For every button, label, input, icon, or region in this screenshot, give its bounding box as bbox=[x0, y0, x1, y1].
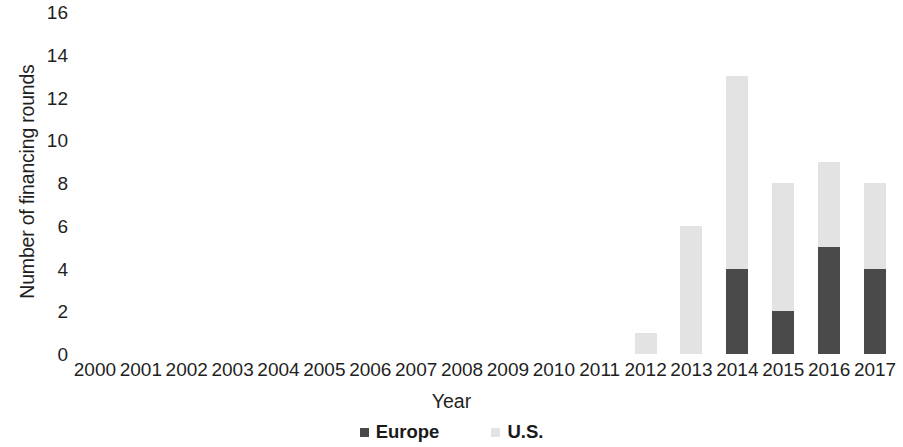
bar-group-2013[interactable] bbox=[669, 12, 715, 354]
legend-swatch-europe-icon bbox=[360, 428, 369, 437]
bar-group-2008[interactable] bbox=[439, 12, 485, 354]
stacked-bar-chart: Number of financing rounds 0246810121416… bbox=[0, 0, 903, 447]
y-axis-tick-10: 10 bbox=[22, 131, 68, 150]
x-axis-tick-2016: 2016 bbox=[808, 358, 850, 382]
y-axis-tick-labels: 0246810121416 bbox=[22, 0, 68, 447]
legend-label: Europe bbox=[376, 421, 440, 443]
bar-stack bbox=[864, 183, 886, 354]
bar-stack bbox=[726, 76, 748, 354]
bar-stack bbox=[680, 226, 702, 354]
bar-group-2003[interactable] bbox=[210, 12, 256, 354]
plot-area bbox=[72, 12, 898, 354]
legend-label: U.S. bbox=[507, 421, 543, 443]
bar-segment-us-2016[interactable] bbox=[818, 162, 840, 248]
x-axis-tick-2004: 2004 bbox=[257, 358, 299, 382]
y-axis-tick-14: 14 bbox=[22, 45, 68, 64]
x-axis-title: Year bbox=[0, 390, 903, 413]
x-axis-tick-2007: 2007 bbox=[395, 358, 437, 382]
bar-segment-us-2014[interactable] bbox=[726, 76, 748, 268]
bar-segment-europe-2015[interactable] bbox=[772, 311, 794, 354]
bar-stack bbox=[635, 333, 657, 354]
x-axis-tick-2015: 2015 bbox=[762, 358, 804, 382]
y-axis-tick-8: 8 bbox=[22, 174, 68, 193]
bar-group-2001[interactable] bbox=[118, 12, 164, 354]
bar-group-2006[interactable] bbox=[347, 12, 393, 354]
x-axis-tick-2000: 2000 bbox=[74, 358, 116, 382]
y-axis-tick-0: 0 bbox=[22, 345, 68, 364]
bar-segment-us-2017[interactable] bbox=[864, 183, 886, 269]
chart-legend: EuropeU.S. bbox=[0, 421, 903, 443]
bar-segment-europe-2014[interactable] bbox=[726, 269, 748, 355]
bar-group-2015[interactable] bbox=[760, 12, 806, 354]
y-axis-tick-6: 6 bbox=[22, 216, 68, 235]
bar-group-2011[interactable] bbox=[577, 12, 623, 354]
y-axis-tick-4: 4 bbox=[22, 259, 68, 278]
x-axis-tick-2013: 2013 bbox=[670, 358, 712, 382]
y-axis-tick-2: 2 bbox=[22, 302, 68, 321]
bar-group-2009[interactable] bbox=[485, 12, 531, 354]
bar-segment-europe-2016[interactable] bbox=[818, 247, 840, 354]
x-axis-tick-2003: 2003 bbox=[211, 358, 253, 382]
x-axis-tick-2005: 2005 bbox=[303, 358, 345, 382]
x-axis-tick-2011: 2011 bbox=[579, 358, 620, 382]
bar-segment-us-2012[interactable] bbox=[635, 333, 657, 354]
x-axis-tick-2009: 2009 bbox=[487, 358, 529, 382]
bar-segment-us-2015[interactable] bbox=[772, 183, 794, 311]
bar-stack bbox=[818, 162, 840, 354]
x-axis-tick-2014: 2014 bbox=[716, 358, 758, 382]
bar-group-2014[interactable] bbox=[714, 12, 760, 354]
x-axis-tick-2002: 2002 bbox=[166, 358, 208, 382]
bar-group-2005[interactable] bbox=[301, 12, 347, 354]
x-axis-tick-2012: 2012 bbox=[624, 358, 666, 382]
bar-group-2016[interactable] bbox=[806, 12, 852, 354]
x-axis-tick-2006: 2006 bbox=[349, 358, 391, 382]
y-axis-tick-12: 12 bbox=[22, 88, 68, 107]
x-axis-tick-2008: 2008 bbox=[441, 358, 483, 382]
x-axis-tick-2010: 2010 bbox=[533, 358, 575, 382]
bar-stack bbox=[772, 183, 794, 354]
bar-group-2000[interactable] bbox=[72, 12, 118, 354]
legend-item-us[interactable]: U.S. bbox=[491, 421, 543, 443]
y-axis-tick-16: 16 bbox=[22, 3, 68, 22]
x-axis-tick-labels: 2000200120022003200420052006200720082009… bbox=[72, 358, 898, 384]
bar-group-2017[interactable] bbox=[852, 12, 898, 354]
x-axis-tick-2001: 2001 bbox=[120, 358, 162, 382]
bar-group-2012[interactable] bbox=[623, 12, 669, 354]
bar-segment-us-2013[interactable] bbox=[680, 226, 702, 354]
legend-swatch-us-icon bbox=[491, 428, 500, 437]
bar-group-2007[interactable] bbox=[393, 12, 439, 354]
bar-group-2004[interactable] bbox=[256, 12, 302, 354]
bar-segment-europe-2017[interactable] bbox=[864, 269, 886, 355]
bar-group-2002[interactable] bbox=[164, 12, 210, 354]
bar-group-2010[interactable] bbox=[531, 12, 577, 354]
x-axis-tick-2017: 2017 bbox=[854, 358, 896, 382]
legend-item-europe[interactable]: Europe bbox=[360, 421, 440, 443]
